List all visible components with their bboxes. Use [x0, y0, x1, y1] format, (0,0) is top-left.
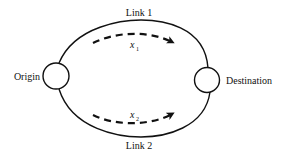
svg-text:x: x [129, 109, 135, 120]
svg-text:2: 2 [136, 116, 139, 122]
network-diagram: Link 1 Link 2 Origin Destination x 1 x 2 [0, 0, 283, 156]
flow-label-x1: x 1 [129, 39, 139, 52]
origin-node [43, 63, 69, 89]
link-1-label: Link 1 [126, 7, 152, 18]
destination-node [195, 68, 220, 93]
link-2-label: Link 2 [126, 140, 152, 151]
svg-text:x: x [129, 39, 135, 50]
link-2-arc [59, 89, 210, 137]
flow-label-x2: x 2 [129, 109, 139, 122]
destination-label: Destination [226, 75, 272, 86]
origin-label: Origin [14, 71, 40, 82]
svg-text:1: 1 [136, 46, 139, 52]
